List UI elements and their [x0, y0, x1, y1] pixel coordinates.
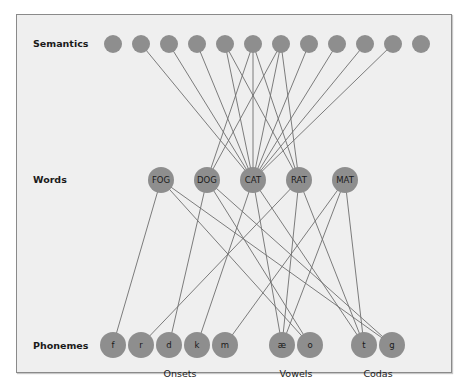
phoneme-node-k: k — [184, 332, 210, 358]
phoneme-node-f: f — [100, 332, 126, 358]
semantic-word-edge — [225, 44, 253, 180]
word-node-fog: FOG — [148, 167, 174, 193]
semantic-node-circle — [384, 35, 402, 53]
phoneme-node-o-label: o — [307, 340, 312, 350]
word-node-mat-label: MAT — [336, 175, 354, 185]
phoneme-node-g-label: g — [389, 340, 394, 350]
semantic-node — [188, 35, 206, 53]
semantic-node-circle — [188, 35, 206, 53]
word-node-mat: MAT — [332, 167, 358, 193]
word-node-dog: DOG — [194, 167, 220, 193]
word-node-cat-label: CAT — [245, 175, 262, 185]
phoneme-node-m: m — [212, 332, 238, 358]
word-node-dog-label: DOG — [197, 175, 217, 185]
semantic-node-circle — [160, 35, 178, 53]
word-phoneme-edge — [207, 180, 392, 345]
phoneme-node-g: g — [379, 332, 405, 358]
semantic-node-circle — [104, 35, 122, 53]
phoneme-node-m-label: m — [221, 340, 229, 350]
phonemes-row-label: Phonemes — [33, 340, 89, 351]
word-phoneme-edge — [161, 180, 310, 345]
word-node-rat: RAT — [286, 167, 312, 193]
semantic-node-circle — [132, 35, 150, 53]
phoneme-node-d: d — [156, 332, 182, 358]
connections — [113, 44, 393, 345]
semantic-node-circle — [356, 35, 374, 53]
semantic-node-circle — [412, 35, 430, 53]
semantic-node — [160, 35, 178, 53]
word-phoneme-edge — [197, 180, 253, 345]
word-phoneme-edge — [161, 180, 392, 345]
word-node-cat: CAT — [240, 167, 266, 193]
word-phoneme-edge — [207, 180, 310, 345]
phoneme-node-k-label: k — [195, 340, 200, 350]
phoneme-node-o: o — [297, 332, 323, 358]
semantic-node — [244, 35, 262, 53]
semantic-node-circle — [216, 35, 234, 53]
semantic-node — [356, 35, 374, 53]
phoneme-node-ae: æ — [269, 332, 295, 358]
semantic-node-circle — [300, 35, 318, 53]
vowels-group-label: Vowels — [280, 368, 313, 379]
semantic-node — [300, 35, 318, 53]
semantic-word-edge — [253, 44, 309, 180]
word-phoneme-edge — [141, 180, 299, 345]
phoneme-node-t: t — [351, 332, 377, 358]
semantic-node — [412, 35, 430, 53]
phoneme-node-d-label: d — [166, 340, 171, 350]
semantic-node — [272, 35, 290, 53]
semantic-word-edge — [253, 44, 337, 180]
semantic-node — [216, 35, 234, 53]
phoneme-node-r-label: r — [139, 340, 143, 350]
semantics-row-label: Semantics — [33, 38, 89, 49]
words-row-label: Words — [33, 174, 67, 185]
phoneme-node-ae-label: æ — [278, 340, 286, 350]
semantic-word-edge — [253, 44, 299, 180]
semantic-node — [384, 35, 402, 53]
word-phoneme-edge — [113, 180, 161, 345]
codas-group-label: Codas — [363, 368, 392, 379]
onsets-group-label: Onsets — [164, 368, 197, 379]
word-phoneme-edge — [253, 180, 282, 345]
nodes: FOGDOGCATRATMATfrdkmæotg — [100, 35, 430, 358]
semantic-node-circle — [328, 35, 346, 53]
network-diagram: FOGDOGCATRATMATfrdkmæotg Semantics Words… — [0, 0, 462, 384]
semantic-node-circle — [272, 35, 290, 53]
phoneme-node-r: r — [128, 332, 154, 358]
semantic-word-edge — [253, 44, 281, 180]
word-node-fog-label: FOG — [152, 175, 170, 185]
semantic-word-edge — [253, 44, 393, 180]
semantic-word-edge — [207, 44, 253, 180]
semantic-node — [104, 35, 122, 53]
semantic-word-edge — [169, 44, 253, 180]
word-phoneme-edge — [169, 180, 207, 345]
semantic-word-edge — [281, 44, 299, 180]
semantic-word-edge — [197, 44, 253, 180]
word-node-rat-label: RAT — [291, 175, 308, 185]
semantic-node-circle — [244, 35, 262, 53]
semantic-node — [328, 35, 346, 53]
semantic-node — [132, 35, 150, 53]
word-phoneme-edge — [282, 180, 345, 345]
